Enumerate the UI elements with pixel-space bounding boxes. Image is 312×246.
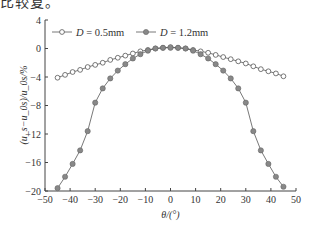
x-tick-label: −50 [37, 194, 53, 205]
y-tick-label: −16 [25, 157, 41, 168]
open-circle-marker [213, 53, 218, 58]
x-axis-title: θ/(°) [161, 209, 180, 221]
filled-circle-marker [70, 161, 75, 166]
filled-circle-marker [198, 52, 203, 57]
y-tick-label: 4 [36, 15, 41, 26]
open-circle-marker [100, 60, 105, 65]
filled-circle-marker [85, 129, 90, 134]
filled-circle-marker [115, 68, 120, 73]
x-tick-label: −40 [62, 194, 78, 205]
open-circle-marker [281, 74, 286, 79]
y-tick-label: −4 [30, 72, 41, 83]
filled-circle-marker [93, 100, 98, 105]
filled-circle-marker [55, 186, 60, 191]
filled-circle-marker [123, 62, 128, 67]
filled-circle-marker [190, 48, 195, 53]
open-circle-marker [221, 55, 226, 60]
open-circle-marker [123, 53, 128, 58]
x-tick-label: −30 [87, 194, 103, 205]
open-circle-marker [78, 67, 83, 72]
y-tick-label: 0 [36, 43, 41, 54]
filled-circle-marker [130, 56, 135, 61]
series-line-0 [58, 47, 284, 78]
filled-circle-marker [108, 76, 113, 81]
filled-circle-marker [266, 161, 271, 166]
x-tick-label: −10 [138, 194, 154, 205]
x-tick-label: 50 [291, 194, 301, 205]
open-circle-marker [115, 55, 120, 60]
x-tick-label: −20 [112, 194, 128, 205]
filled-circle-marker [251, 129, 256, 134]
filled-circle-marker [138, 52, 143, 57]
open-circle-marker [266, 69, 271, 74]
filled-circle-marker [213, 62, 218, 67]
open-circle-marker [63, 72, 68, 77]
filled-circle-marker [78, 148, 83, 153]
filled-circle-marker [62, 174, 67, 179]
axes: 40−4−8−12−16−20−50−40−30−20−100102030405… [18, 15, 301, 222]
filled-circle-marker [221, 68, 226, 73]
filled-circle-marker [281, 184, 286, 189]
filled-circle-marker [206, 56, 211, 61]
filled-circle-marker [258, 148, 263, 153]
open-circle-marker [251, 64, 256, 69]
legend: D = 0.5mmD = 1.2mm [52, 27, 208, 38]
open-circle-marker [70, 70, 75, 75]
legend-filled-circle-icon [143, 29, 148, 34]
open-circle-marker [85, 65, 90, 70]
x-tick-label: 0 [168, 194, 173, 205]
filled-circle-marker [153, 46, 158, 51]
line-chart: 40−4−8−12−16−20−50−40−30−20−100102030405… [0, 0, 312, 246]
open-circle-marker [130, 51, 135, 56]
filled-circle-marker [145, 48, 150, 53]
filled-circle-marker [273, 174, 278, 179]
filled-circle-marker [243, 100, 248, 105]
y-axis-title: (u_s−u_0s)/u_0s/% [18, 66, 30, 145]
filled-circle-marker [175, 45, 180, 50]
legend-label-0: D = 0.5mm [75, 27, 124, 38]
open-circle-marker [243, 61, 248, 66]
x-tick-label: 30 [241, 194, 251, 205]
y-tick-label: −8 [30, 100, 41, 111]
filled-circle-marker [236, 86, 241, 91]
open-circle-marker [236, 59, 241, 64]
open-circle-marker [274, 71, 279, 76]
x-tick-label: 40 [266, 194, 276, 205]
legend-open-circle-icon [60, 30, 65, 35]
open-circle-marker [206, 50, 211, 55]
filled-circle-marker [100, 86, 105, 91]
filled-circle-marker [160, 45, 165, 50]
series-line-1 [58, 48, 284, 188]
open-circle-marker [93, 62, 98, 67]
filled-circle-marker [228, 76, 233, 81]
open-circle-marker [258, 67, 263, 72]
legend-label-1: D = 1.2mm [159, 27, 208, 38]
open-circle-marker [108, 58, 113, 63]
open-circle-marker [55, 75, 60, 80]
open-circle-marker [228, 57, 233, 62]
filled-circle-marker [183, 46, 188, 51]
series-layer [55, 45, 286, 191]
x-tick-label: 10 [191, 194, 201, 205]
filled-circle-marker [168, 45, 173, 50]
x-tick-label: 20 [216, 194, 226, 205]
